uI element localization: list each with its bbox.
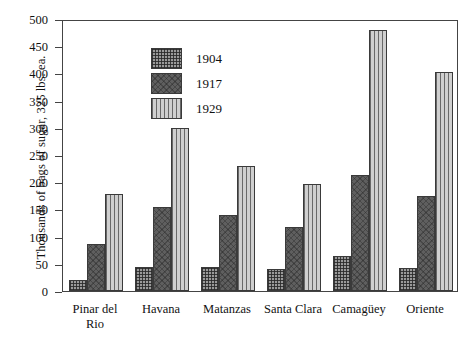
x-axis-labels: Pinar del RioHavanaMatanzasSanta ClaraCa…: [62, 296, 458, 348]
bar-1929: [435, 72, 453, 291]
bar-1904: [267, 269, 285, 291]
y-axis-tick: [55, 183, 62, 184]
legend-swatch-1929: [151, 98, 182, 119]
x-axis-label: Camagüey: [332, 302, 385, 317]
y-axis-tick-label: 500: [29, 14, 48, 27]
bar-1904: [69, 280, 87, 291]
y-axis-tick-label: 350: [29, 95, 48, 108]
legend-label-1929: 1929: [196, 102, 222, 115]
legend-entry: 1917: [151, 72, 222, 94]
y-axis-tick: [55, 265, 62, 266]
y-axis-tick: [55, 129, 62, 130]
y-axis-ticks: 050100150200250300350400450500: [0, 0, 62, 348]
bar-1917: [351, 175, 369, 291]
y-axis-tick-label: 50: [36, 259, 49, 272]
y-axis-tick-label: 0: [42, 286, 48, 299]
x-axis-label: Santa Clara: [264, 302, 322, 317]
x-axis-label: Oriente: [406, 302, 443, 317]
x-axis-label: Matanzas: [203, 302, 251, 317]
chart-legend: 1904 1917 1929: [151, 47, 222, 119]
y-axis-tick: [55, 238, 62, 239]
bar-1917: [219, 215, 237, 291]
y-axis-tick: [55, 156, 62, 157]
bar-1929: [105, 194, 123, 291]
bar-group: [261, 21, 327, 291]
bar-1904: [135, 267, 153, 291]
bar-1929: [237, 166, 255, 291]
legend-label-1917: 1917: [196, 77, 222, 90]
legend-entry: 1904: [151, 47, 222, 69]
y-axis-tick: [55, 74, 62, 75]
legend-swatch-1904: [151, 48, 182, 69]
x-axis-label: Pinar del Rio: [73, 302, 118, 332]
y-axis-tick: [55, 47, 62, 48]
bar-chart-figure: Thousands of bags of sugar, 325 lbs. ea.…: [0, 0, 470, 348]
y-axis-tick-label: 150: [29, 204, 48, 217]
y-axis-tick-label: 400: [29, 68, 48, 81]
x-axis-label: Havana: [142, 302, 180, 317]
y-axis-tick-label: 200: [29, 177, 48, 190]
y-axis-tick-label: 250: [29, 150, 48, 163]
bar-1929: [303, 184, 321, 291]
y-axis-tick-label: 450: [29, 41, 48, 54]
legend-entry: 1929: [151, 97, 222, 119]
legend-label-1904: 1904: [196, 52, 222, 65]
bar-1904: [201, 267, 219, 291]
y-axis-tick: [55, 292, 62, 293]
y-axis-tick-label: 100: [29, 231, 48, 244]
bar-1904: [333, 256, 351, 291]
bar-series-container: [63, 21, 457, 291]
legend-swatch-1917: [151, 73, 182, 94]
bar-1904: [399, 268, 417, 291]
y-axis-tick: [55, 210, 62, 211]
y-axis-tick: [55, 102, 62, 103]
bar-1917: [87, 244, 105, 291]
bar-1929: [369, 30, 387, 291]
y-axis-tick: [55, 20, 62, 21]
bar-1917: [153, 207, 171, 291]
y-axis-tick-label: 300: [29, 123, 48, 136]
bar-group: [327, 21, 393, 291]
bar-1929: [171, 128, 189, 291]
plot-area: 1904 1917 1929: [62, 20, 458, 292]
bar-group: [63, 21, 129, 291]
bar-group: [393, 21, 459, 291]
bar-1917: [285, 227, 303, 291]
bar-1917: [417, 196, 435, 291]
